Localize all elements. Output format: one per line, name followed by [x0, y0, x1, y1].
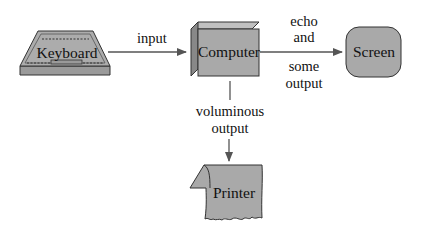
keyboard-label: Keyboard — [33, 44, 101, 62]
output-label: output — [280, 75, 328, 91]
and-label: and — [280, 29, 328, 45]
screen-label: Screen — [346, 43, 402, 61]
printer-label: Printer — [206, 184, 262, 202]
voluminous-label: voluminous — [186, 103, 274, 119]
echo-label: echo — [280, 13, 328, 29]
computer-label: Computer — [196, 43, 262, 61]
input-label: input — [128, 30, 176, 46]
voluminous-output-label: output — [186, 120, 274, 136]
some-label: some — [280, 58, 328, 74]
